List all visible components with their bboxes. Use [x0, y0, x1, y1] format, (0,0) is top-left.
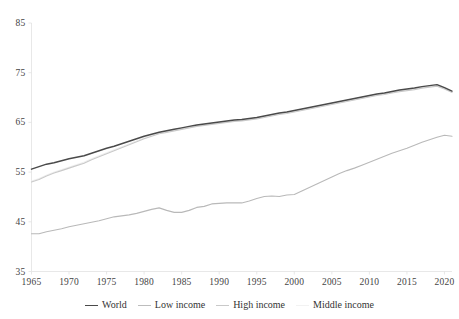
legend-line-swatch — [296, 305, 309, 306]
legend-item-middle-income[interactable]: Middle income — [296, 299, 374, 311]
x-axis-tick-label: 2010 — [352, 277, 386, 287]
x-axis-tick-label: 2000 — [277, 277, 311, 287]
legend-label: Low income — [155, 299, 205, 311]
series-line-world — [32, 85, 453, 169]
x-axis-tick-label: 2005 — [315, 277, 349, 287]
legend-label: World — [102, 299, 127, 311]
series-line-middle-income — [32, 85, 453, 181]
series-line-low-income — [32, 135, 453, 233]
legend-item-low-income[interactable]: Low income — [138, 299, 205, 311]
y-axis-tick-label: 45 — [2, 217, 26, 227]
line-chart: 354555657585 196519701975198019851990199… — [0, 0, 459, 319]
x-axis-tick-label: 1990 — [202, 277, 236, 287]
y-axis-tick-label: 65 — [2, 117, 26, 127]
chart-legend: WorldLow incomeHigh incomeMiddle income — [0, 296, 459, 314]
y-axis-tick-label: 55 — [2, 167, 26, 177]
legend-item-world[interactable]: World — [85, 299, 127, 311]
x-axis-tick-label: 1975 — [90, 277, 124, 287]
x-axis-tick-label: 1970 — [52, 277, 86, 287]
x-axis-tick-label: 1980 — [127, 277, 161, 287]
y-axis-tick-label: 85 — [2, 18, 26, 28]
legend-line-swatch — [138, 305, 151, 306]
legend-line-swatch — [85, 305, 98, 306]
legend-line-swatch — [216, 305, 229, 306]
legend-label: High income — [233, 299, 285, 311]
x-axis-tick-label: 1985 — [165, 277, 199, 287]
y-axis-tick-label: 75 — [2, 68, 26, 78]
x-axis-tick-label: 2020 — [427, 277, 459, 287]
x-axis-tick-label: 1995 — [240, 277, 274, 287]
series-line-high-income — [32, 86, 453, 182]
legend-item-high-income[interactable]: High income — [216, 299, 285, 311]
x-axis-tick-label: 1965 — [15, 277, 49, 287]
chart-plot-area — [0, 0, 459, 319]
legend-label: Middle income — [313, 299, 374, 311]
x-axis-tick-label: 2015 — [390, 277, 424, 287]
y-axis-tick-label: 35 — [2, 267, 26, 277]
